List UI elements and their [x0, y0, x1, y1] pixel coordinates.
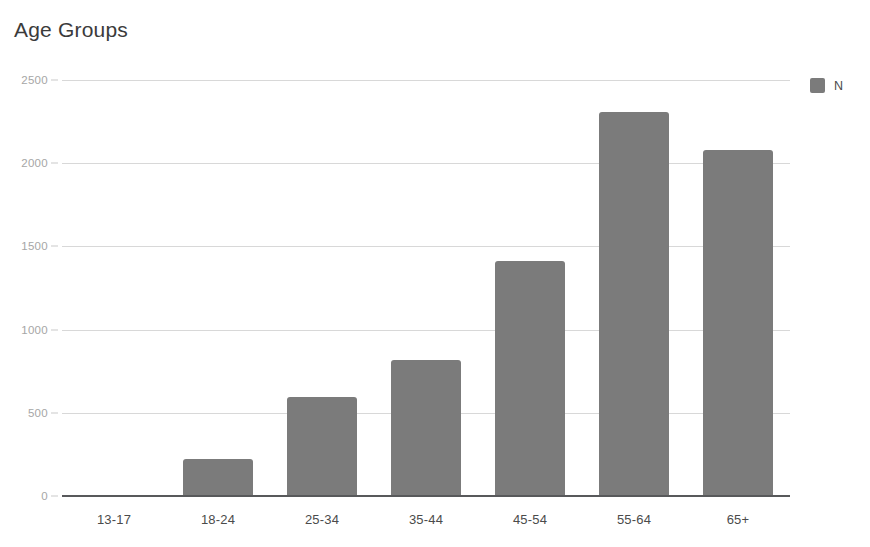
bar-55-64[interactable]: [599, 112, 670, 496]
y-axis-tick-label: 2500: [21, 74, 48, 86]
legend-swatch-n: [810, 78, 825, 93]
y-axis-tick-mark: [51, 329, 58, 330]
x-axis-tick-label-18-24: 18-24: [201, 512, 235, 527]
x-axis: 13-1718-2425-3435-4445-5455-6465+: [62, 505, 790, 545]
y-axis-tick-label: 2000: [21, 157, 48, 169]
y-axis-tick-mark: [51, 246, 58, 247]
y-axis-tick-label: 1000: [21, 324, 48, 336]
bar-45-54[interactable]: [495, 261, 566, 496]
y-axis-tick-label: 1500: [21, 240, 48, 252]
x-axis-baseline: [62, 495, 790, 497]
x-axis-tick-label-45-54: 45-54: [513, 512, 547, 527]
y-axis-tick-mark: [51, 80, 58, 81]
y-axis-tick-label: 500: [28, 407, 48, 419]
x-axis-tick-label-35-44: 35-44: [409, 512, 443, 527]
y-axis: 05001000150020002500: [0, 0, 62, 547]
bar-35-44[interactable]: [391, 360, 462, 496]
y-axis-tick-label: 0: [41, 490, 48, 502]
y-axis-tick-mark: [51, 412, 58, 413]
legend-label: N: [834, 79, 843, 93]
x-axis-tick-label-13-17: 13-17: [97, 512, 131, 527]
bar-65+[interactable]: [703, 150, 774, 496]
y-axis-tick-mark: [51, 163, 58, 164]
x-axis-tick-label-25-34: 25-34: [305, 512, 339, 527]
y-axis-tick-mark: [51, 496, 58, 497]
bar-18-24[interactable]: [183, 459, 254, 496]
chart-legend: N: [810, 78, 843, 93]
x-axis-tick-label-65+: 65+: [727, 512, 750, 527]
plot-area: [62, 80, 790, 496]
bar-chart: Age Groups 05001000150020002500 13-1718-…: [0, 0, 870, 547]
bars-layer: [62, 80, 790, 496]
x-axis-tick-label-55-64: 55-64: [617, 512, 651, 527]
bar-25-34[interactable]: [287, 397, 358, 496]
